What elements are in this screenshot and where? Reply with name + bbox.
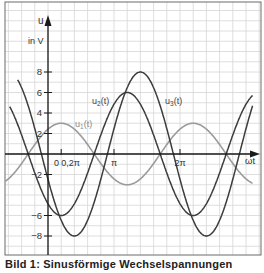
series-label-u1t: u1(t) (75, 119, 92, 130)
y-tick-label: 6 (37, 87, 42, 98)
y-tick-label: 8 (37, 66, 42, 77)
y-tick-label: 4 (37, 107, 42, 118)
figure-caption: Bild 1: Sinusförmige Wechselspannungen (5, 258, 232, 270)
x-tick-label: π (111, 158, 117, 168)
y-tick-label: 2 (37, 128, 42, 139)
x-tick-label: 2π (174, 158, 185, 168)
origin-label: 0 (54, 158, 59, 168)
voltage-chart: 8642−2−6−800,2ππ2πωtuin Vu1(t)u2(t)u3(t) (0, 0, 264, 258)
x-tick-label: 0,2π (61, 158, 80, 168)
y-unit-label: in V (28, 36, 44, 46)
series-label-u2t: u2(t) (92, 96, 109, 107)
x-axis-label: ωt (245, 155, 255, 166)
y-tick-label: −8 (31, 230, 42, 241)
y-tick-label: −6 (31, 210, 42, 221)
chart-labels: 8642−2−6−800,2ππ2πωtuin Vu1(t)u2(t)u3(t) (28, 15, 255, 241)
series-label-u3t: u3(t) (165, 96, 182, 107)
chart-axes (5, 15, 260, 255)
y-tick-label: −2 (31, 169, 42, 180)
y-axis-label: u (38, 15, 44, 26)
